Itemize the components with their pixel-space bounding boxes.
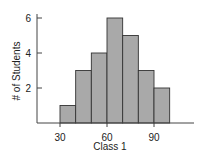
histogram-bar — [60, 106, 76, 124]
bars-group — [60, 18, 170, 123]
y-tick-label: 2 — [25, 83, 31, 94]
x-tick-label: 90 — [148, 132, 160, 143]
y-tick-label: 4 — [25, 48, 31, 59]
histogram-bar — [123, 36, 139, 124]
histogram-chart: 246 306090 Class 1 # of Students — [0, 0, 204, 162]
y-axis-label: # of Students — [11, 42, 22, 101]
histogram-bar — [107, 18, 123, 123]
histogram-bar — [76, 71, 92, 124]
y-tick-label: 6 — [25, 13, 31, 24]
x-ticks-group: 306090 — [54, 123, 160, 143]
chart-canvas: 246 306090 Class 1 # of Students — [0, 0, 204, 162]
histogram-bar — [154, 88, 170, 123]
x-axis-label: Class 1 — [93, 141, 127, 152]
x-tick-label: 30 — [54, 132, 66, 143]
y-ticks-group: 246 — [25, 13, 42, 94]
histogram-bar — [91, 53, 107, 123]
histogram-bar — [138, 71, 154, 124]
